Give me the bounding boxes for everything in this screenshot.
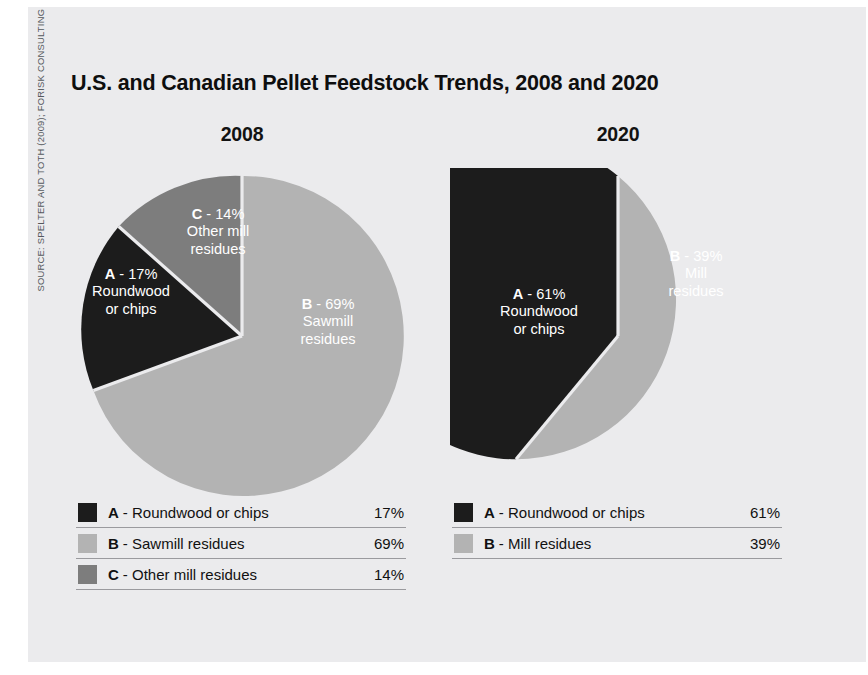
legend-label: - Roundwood or chips xyxy=(123,504,269,521)
legend-percent: 61% xyxy=(750,504,780,521)
legend-label: - Other mill residues xyxy=(123,566,257,583)
legend-key: B xyxy=(484,535,495,552)
legend-row[interactable]: B - Sawmill residues 69% xyxy=(76,528,406,559)
legend-row[interactable]: C - Other mill residues 14% xyxy=(76,559,406,590)
figure-title: U.S. and Canadian Pellet Feedstock Trend… xyxy=(71,71,658,96)
pie-svg-2020 xyxy=(450,168,786,504)
legend-percent: 14% xyxy=(374,566,404,583)
figure-panel: U.S. and Canadian Pellet Feedstock Trend… xyxy=(28,7,866,662)
legend-label: - Sawmill residues xyxy=(123,535,245,552)
legend-swatch-icon xyxy=(78,565,97,584)
legend-row[interactable]: A - Roundwood or chips 61% xyxy=(452,497,782,528)
chart-year-2008: 2008 xyxy=(56,123,428,149)
chart-block-2020: 2020 B - 39% Mill residues A - 61% Round… xyxy=(432,123,804,504)
legend-swatch-icon xyxy=(454,534,473,553)
legend-key: A xyxy=(108,504,119,521)
legend-swatch-icon xyxy=(78,503,97,522)
legend-row[interactable]: A - Roundwood or chips 17% xyxy=(76,497,406,528)
pie-chart-2008: C - 14% Other mill residues A - 17% Roun… xyxy=(56,168,428,504)
legend-row[interactable]: B - Mill residues 39% xyxy=(452,528,782,559)
legend-2020: A - Roundwood or chips 61% B - Mill resi… xyxy=(452,497,782,559)
legend-label: - Roundwood or chips xyxy=(499,504,645,521)
chart-block-2008: 2008 C - 14% Other mill residues xyxy=(56,123,428,504)
chart-year-2020: 2020 xyxy=(432,123,804,149)
legend-label: - Mill residues xyxy=(499,535,592,552)
legend-swatch-icon xyxy=(454,503,473,522)
legend-key: A xyxy=(484,504,495,521)
legend-key: B xyxy=(108,535,119,552)
source-credit: SOURCE: SPELTER AND TOTH (2009); FORISK … xyxy=(0,0,26,300)
pie-svg-2008 xyxy=(74,168,410,504)
legend-percent: 69% xyxy=(374,535,404,552)
legend-percent: 17% xyxy=(374,504,404,521)
pie-chart-2020: B - 39% Mill residues A - 61% Roundwood … xyxy=(432,168,804,504)
legend-swatch-icon xyxy=(78,534,97,553)
source-credit-text: SOURCE: SPELTER AND TOTH (2009); FORISK … xyxy=(35,0,46,292)
legend-2008: A - Roundwood or chips 17% B - Sawmill r… xyxy=(76,497,406,590)
legend-percent: 39% xyxy=(750,535,780,552)
legend-key: C xyxy=(108,566,119,583)
